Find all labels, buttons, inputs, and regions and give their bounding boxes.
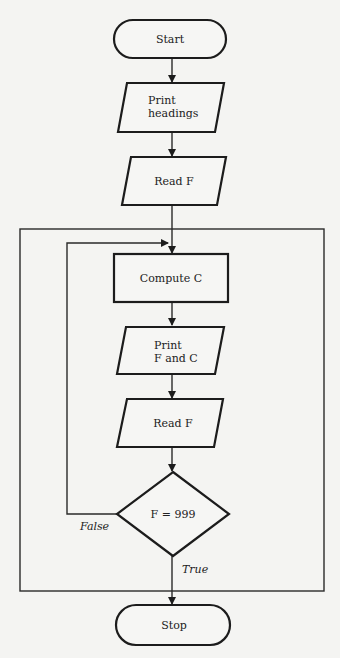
node-print-headings-line2: headings xyxy=(148,107,199,120)
node-decision: F = 999 xyxy=(117,472,229,556)
node-stop-label: Stop xyxy=(161,619,187,632)
node-print-f-and-c-line1: Print xyxy=(154,339,182,352)
node-print-headings: Print headings xyxy=(118,83,224,132)
node-read-f-2-label: Read F xyxy=(153,417,193,430)
node-print-f-and-c: Print F and C xyxy=(117,327,224,374)
node-print-f-and-c-line2: F and C xyxy=(154,352,198,365)
node-read-f-1-label: Read F xyxy=(154,175,194,188)
node-compute-c-label: Compute C xyxy=(140,272,202,285)
edge-label-false: False xyxy=(79,520,110,533)
node-decision-label: F = 999 xyxy=(151,508,196,521)
node-print-headings-line1: Print xyxy=(148,94,176,107)
node-start: Start xyxy=(114,20,226,58)
node-compute-c: Compute C xyxy=(114,254,228,302)
flowchart: Start Print headings Read F Compute C Pr… xyxy=(0,0,340,658)
node-stop: Stop xyxy=(116,605,230,645)
edge-label-true: True xyxy=(182,563,209,576)
node-read-f-1: Read F xyxy=(122,157,226,205)
node-start-label: Start xyxy=(156,33,185,46)
node-read-f-2: Read F xyxy=(117,399,223,447)
